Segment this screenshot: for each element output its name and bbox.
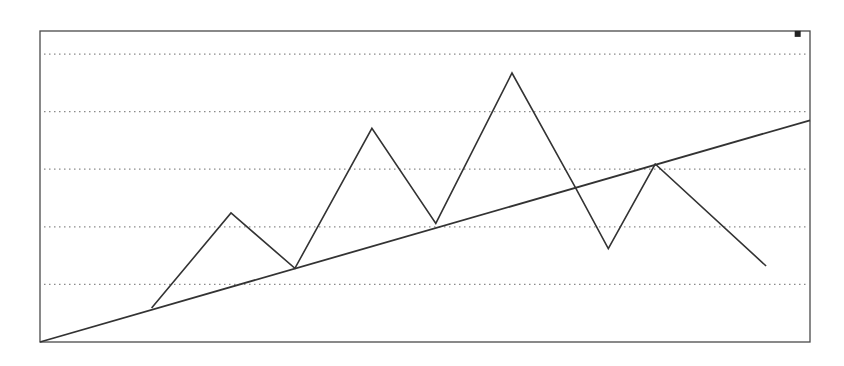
trend-line [40,120,810,342]
plot-frame [40,31,810,342]
zigzag-series-line [152,73,767,308]
annotations [795,31,801,37]
gridlines [44,54,808,284]
line-chart [0,0,844,366]
square-marker-icon [795,31,801,37]
